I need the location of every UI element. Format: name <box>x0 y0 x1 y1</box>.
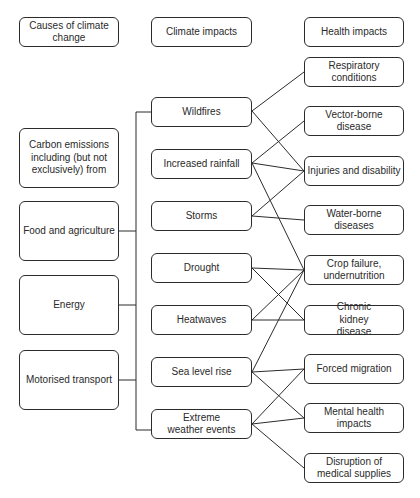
header-climate-impacts: Climate impacts <box>151 17 252 47</box>
cause-food-agriculture: Food and agriculture <box>19 201 119 261</box>
health-label: Injuries and disability <box>308 165 401 178</box>
cause-intro-label: Carbon emissions including (but not excl… <box>28 139 110 177</box>
header-climate-label: Climate impacts <box>166 26 237 39</box>
health-medical-supplies: Disruption of medical supplies <box>304 453 404 483</box>
header-health-impacts: Health impacts <box>304 17 404 47</box>
climate-label: Increased rainfall <box>163 158 239 171</box>
health-label: Chronic kidney disease <box>321 301 387 339</box>
climate-sea-level-rise: Sea level rise <box>151 357 252 387</box>
health-vector-borne: Vector-borne disease <box>304 106 404 136</box>
health-crop-failure: Crop failure, undernutrition <box>304 255 404 285</box>
cause-label: Food and agriculture <box>23 225 115 238</box>
cause-label: Energy <box>53 299 85 312</box>
climate-label: Sea level rise <box>171 366 231 379</box>
health-chronic-kidney: Chronic kidney disease <box>304 305 404 335</box>
health-water-borne: Water-borne diseases <box>304 205 404 235</box>
health-label: Respiratory conditions <box>307 60 401 85</box>
climate-increased-rainfall: Increased rainfall <box>151 149 252 179</box>
health-label: Forced migration <box>316 363 391 376</box>
header-health-label: Health impacts <box>321 26 387 39</box>
climate-label: Extreme weather events <box>166 412 237 437</box>
cause-energy: Energy <box>19 275 119 335</box>
header-causes-label: Causes of climate change <box>22 20 116 45</box>
health-label: Vector-borne disease <box>307 109 401 134</box>
health-label: Mental health impacts <box>307 406 401 431</box>
health-injuries: Injuries and disability <box>304 156 404 186</box>
header-causes: Causes of climate change <box>19 17 119 47</box>
climate-drought: Drought <box>151 253 252 283</box>
health-mental-health: Mental health impacts <box>304 403 404 433</box>
climate-label: Storms <box>186 210 218 223</box>
cause-carbon-emissions: Carbon emissions including (but not excl… <box>19 128 119 188</box>
climate-label: Heatwaves <box>177 314 226 327</box>
cause-label: Motorised transport <box>26 374 112 387</box>
health-label: Water-borne diseases <box>307 208 401 233</box>
health-label: Crop failure, undernutrition <box>319 258 389 283</box>
cause-motorised-transport: Motorised transport <box>19 350 119 410</box>
climate-heatwaves: Heatwaves <box>151 305 252 335</box>
climate-extreme-weather: Extreme weather events <box>151 409 252 439</box>
health-respiratory: Respiratory conditions <box>304 57 404 87</box>
health-forced-migration: Forced migration <box>304 354 404 384</box>
climate-label: Drought <box>184 262 220 275</box>
climate-storms: Storms <box>151 201 252 231</box>
trunk-line <box>136 112 151 430</box>
climate-health-diagram: Causes of climate change Climate impacts… <box>0 0 420 498</box>
climate-wildfires: Wildfires <box>151 97 252 127</box>
climate-label: Wildfires <box>182 106 220 119</box>
health-label: Disruption of medical supplies <box>311 456 397 481</box>
